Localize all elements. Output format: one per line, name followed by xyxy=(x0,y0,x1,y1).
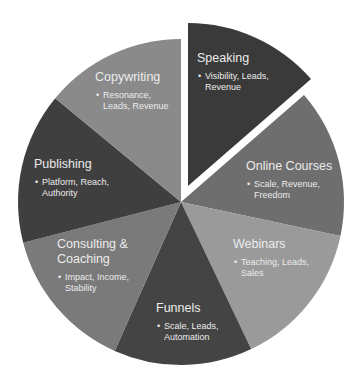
pie-diagram xyxy=(0,0,360,387)
